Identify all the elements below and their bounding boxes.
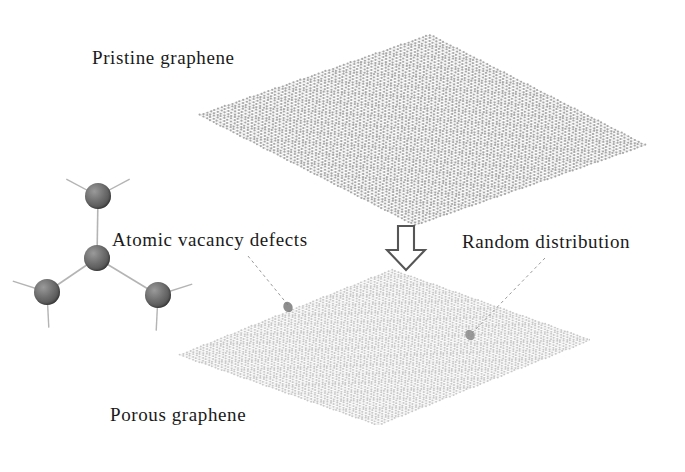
label-porous-graphene: Porous graphene [110,405,246,424]
atom-center [84,245,110,271]
label-random-distribution: Random distribution [462,232,630,251]
graphene-schematic-figure: Pristine graphene Atomic vacancy defects… [0,0,685,472]
atom-top [85,183,111,209]
vacancy-marker-2 [464,328,477,342]
atom-lower-right [145,282,171,308]
label-atomic-vacancy-defects: Atomic vacancy defects [112,230,308,249]
vacancy-marker-1 [282,300,295,314]
leader-line-random [472,258,545,333]
process-arrow-down [383,224,429,272]
atom-lower-left [34,279,60,305]
label-pristine-graphene: Pristine graphene [92,48,235,67]
arrow-down-icon [387,226,425,270]
leader-line-defects [248,256,288,305]
